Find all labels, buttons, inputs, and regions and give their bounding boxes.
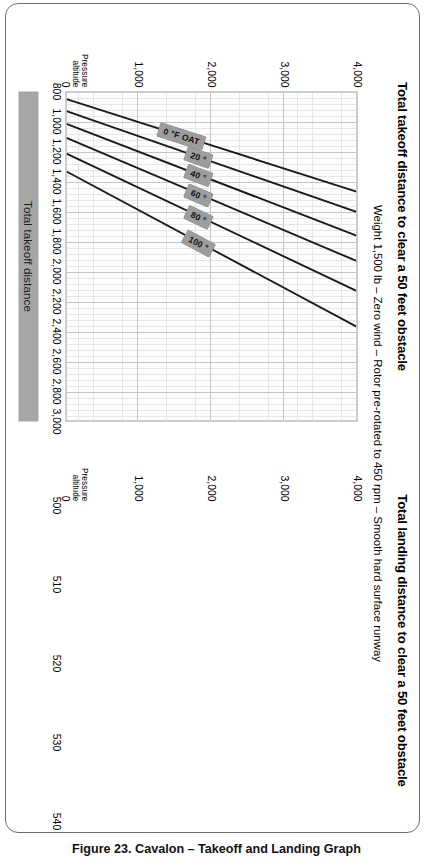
xtick-2400: 2,400 xyxy=(50,318,61,344)
ytick-1000: 1,000 xyxy=(133,465,144,501)
xtick-1800: 1,800 xyxy=(50,228,61,254)
xtick-1400: 1,400 xyxy=(50,168,61,194)
takeoff-series-lines xyxy=(66,92,356,420)
ytick-4000: 4,000 xyxy=(352,51,363,87)
yaxis-title-line2: altitude xyxy=(70,474,80,501)
rotated-canvas: Weight 1,500 lb – Zero wind – Rotor pre-… xyxy=(10,19,423,847)
ytick-2000: 2,000 xyxy=(206,51,217,87)
landing-chart-title: Total landing distance to clear a 50 fee… xyxy=(394,433,409,847)
yaxis-title-line1: Pressure xyxy=(79,53,89,87)
xtick-510: 510 xyxy=(50,575,61,592)
xtick-1600: 1,600 xyxy=(50,198,61,224)
yaxis-title-line1: Pressure xyxy=(79,467,89,501)
takeoff-xaxis-title: Total takeoff distance xyxy=(18,91,38,421)
yaxis-title: Pressurealtitude xyxy=(70,51,88,87)
takeoff-chart-panel: Total takeoff distance to clear a 50 fee… xyxy=(10,19,423,433)
ytick-0: 0 xyxy=(60,51,71,87)
xtick-530: 530 xyxy=(50,733,61,750)
takeoff-plot-area: 0 °F OAT20 °40 °60 °80 °100 ° xyxy=(65,91,357,421)
landing-chart-panel: Total landing distance to clear a 50 fee… xyxy=(10,433,423,847)
xtick-2200: 2,200 xyxy=(50,288,61,314)
xtick-2800: 2,800 xyxy=(50,378,61,404)
figure-caption: Figure 23. Cavalon – Takeoff and Landing… xyxy=(0,842,433,856)
xtick-540: 540 xyxy=(50,812,61,829)
ytick-4000: 4,000 xyxy=(352,465,363,501)
yaxis-title: Pressurealtitude xyxy=(70,465,88,501)
ytick-3000: 3,000 xyxy=(279,51,290,87)
yaxis-title-line2: altitude xyxy=(70,60,80,87)
xtick-3000: 3,000 xyxy=(50,408,61,434)
xtick-2600: 2,600 xyxy=(50,348,61,374)
xtick-1200: 1,200 xyxy=(50,138,61,164)
ytick-3000: 3,000 xyxy=(279,465,290,501)
xtick-2000: 2,000 xyxy=(50,258,61,284)
ytick-0: 0 xyxy=(60,465,71,501)
ytick-1000: 1,000 xyxy=(133,51,144,87)
takeoff-chart-title: Total takeoff distance to clear a 50 fee… xyxy=(394,19,409,433)
xtick-1000: 1,000 xyxy=(50,108,61,134)
xtick-520: 520 xyxy=(50,654,61,671)
figure-page: Weight 1,500 lb – Zero wind – Rotor pre-… xyxy=(0,0,433,866)
ytick-2000: 2,000 xyxy=(206,465,217,501)
